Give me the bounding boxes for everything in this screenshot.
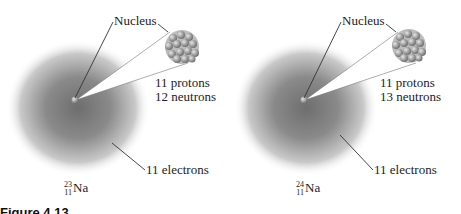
nucleus-label: Nucleus <box>342 14 385 27</box>
neutrons-label: 13 neutrons <box>380 90 441 104</box>
neutrons-label: 12 neutrons <box>155 90 216 104</box>
atomic-number: 11 <box>64 189 72 197</box>
nucleus-cluster <box>165 30 199 64</box>
figure-caption: Figure 4.13 <box>0 205 69 214</box>
electron-cloud <box>6 40 150 176</box>
atomic-number: 11 <box>296 189 304 197</box>
isotope-symbol: 2311Na <box>64 180 88 197</box>
element-symbol: Na <box>305 180 320 195</box>
electrons-label: 11 electrons <box>146 163 209 176</box>
isotope-symbol: 2411Na <box>296 180 320 197</box>
nucleon-count: 11 protons 13 neutrons <box>380 76 441 104</box>
protons-label: 11 protons <box>380 76 441 90</box>
electron-cloud <box>234 40 378 176</box>
nucleus-label: Nucleus <box>114 14 157 27</box>
electrons-label: 11 electrons <box>374 163 437 176</box>
nucleus-cluster <box>392 29 426 63</box>
nucleon-count: 11 protons 12 neutrons <box>155 76 216 104</box>
element-symbol: Na <box>73 180 88 195</box>
protons-label: 11 protons <box>155 76 216 90</box>
